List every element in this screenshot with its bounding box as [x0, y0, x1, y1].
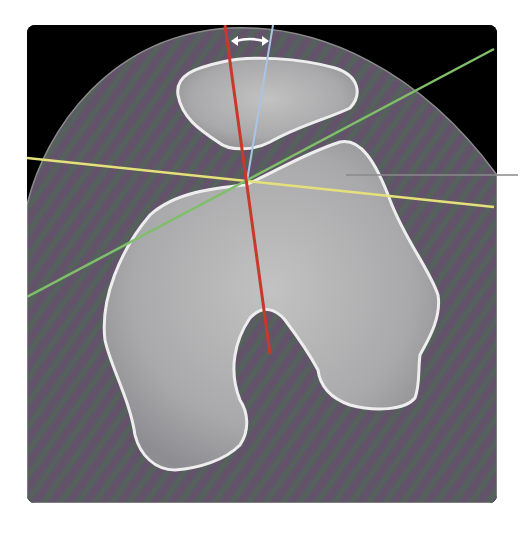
leader-line: [0, 0, 522, 534]
